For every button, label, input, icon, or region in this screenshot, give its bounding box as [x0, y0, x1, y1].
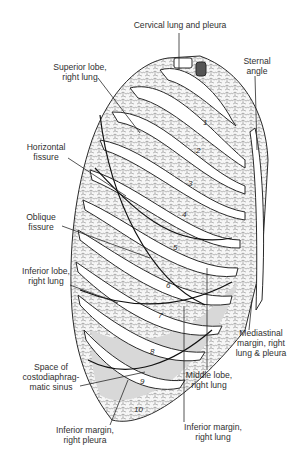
- rib-number-9: 9: [140, 377, 145, 386]
- label-inferior-lobe: Inferior lobe, right lung: [12, 266, 80, 286]
- label-oblique-fissure: Oblique fissure: [18, 212, 64, 232]
- label-inferior-margin-lung: Inferior margin, right lung: [168, 422, 258, 442]
- rib-number-2: 2: [195, 146, 201, 155]
- label-cervical-lung-pleura: Cervical lung and pleura: [120, 20, 240, 30]
- rib-number-3: 3: [188, 179, 193, 188]
- label-middle-lobe: Middle lobe, right lung: [174, 370, 244, 390]
- rib-number-6: 6: [166, 281, 171, 290]
- label-inferior-margin-pleura: Inferior margin, right pleura: [40, 425, 130, 445]
- rib-number-4: 4: [182, 210, 187, 219]
- rib-number-7: 7: [158, 311, 163, 320]
- rib-number-1: 1: [203, 118, 207, 127]
- label-mediastinal-margin: Mediastinal margin, right lung & pleura: [226, 328, 296, 358]
- rib-number-10: 10: [134, 405, 143, 414]
- label-costodiaphragmatic-sinus: Space of costodiaphrag- matic sinus: [12, 362, 90, 392]
- label-horizontal-fissure: Horizontal fissure: [16, 142, 76, 162]
- label-sternal-angle: Sternal angle: [236, 56, 278, 76]
- rib-number-8: 8: [150, 347, 155, 356]
- rib-number-5: 5: [173, 243, 178, 252]
- label-superior-lobe: Superior lobe, right lung: [44, 62, 116, 82]
